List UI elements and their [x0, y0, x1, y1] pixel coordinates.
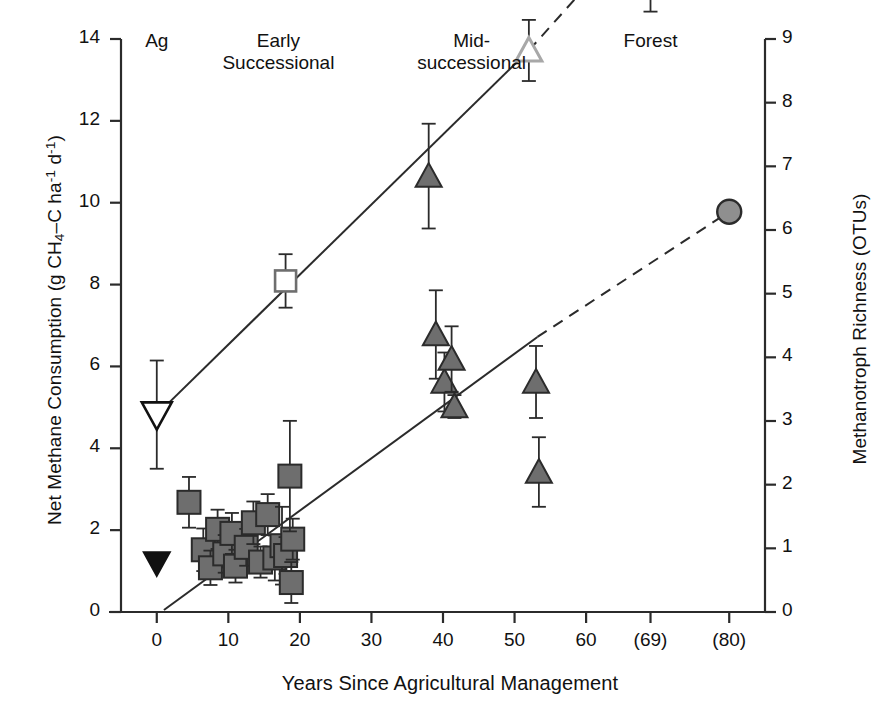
y-tick-label-right-8: 8: [782, 90, 822, 112]
y-tick-label-left-12: 12: [60, 108, 100, 130]
plot-canvas: [0, 0, 888, 717]
x-tick-label-50: 50: [485, 629, 545, 651]
datapoint-triangle-up-filled-4-0: [423, 322, 449, 346]
fit-line-richness-regression: [157, 50, 529, 414]
datapoint-square-open-3-0: [275, 270, 296, 291]
methane-richness-succession-chart: Net Methane Consumption (g CH4–C ha-1 d-…: [0, 0, 888, 717]
group-label-line: Early: [178, 30, 378, 52]
datapoint-square-filled-2-15: [278, 465, 301, 488]
group-label-line: Mid-: [372, 30, 572, 52]
y-tick-label-right-2: 2: [782, 472, 822, 494]
group-label-forest: Forest: [551, 30, 751, 52]
y-tick-label-right-4: 4: [782, 344, 822, 366]
y-tick-label-right-9: 9: [782, 26, 822, 48]
datapoint-triangle-up-filled-4-4: [523, 369, 549, 393]
y-tick-label-left-6: 6: [60, 353, 100, 375]
group-label-line: Successional: [178, 52, 378, 74]
x-tick-label-60: 60: [556, 629, 616, 651]
x-tick-label-10: 10: [198, 629, 258, 651]
x-tick-label-80: (80): [699, 629, 759, 651]
y-tick-label-left-2: 2: [60, 517, 100, 539]
y-tick-label-left-0: 0: [60, 599, 100, 621]
y-tick-label-right-1: 1: [782, 535, 822, 557]
group-label-line: successional: [372, 52, 572, 74]
datapoint-triangle-up-filled-5-0: [416, 163, 442, 187]
y-tick-label-left-4: 4: [60, 435, 100, 457]
datapoint-square-filled-2-0: [177, 491, 200, 514]
y-tick-label-right-0: 0: [782, 599, 822, 621]
datapoint-square-filled-2-16: [280, 571, 303, 594]
datapoint-circle-filled-8-0: [717, 200, 741, 224]
datapoint-triangle-down-open-1-0: [142, 402, 172, 429]
fit-line-consumption-extrapolation: [537, 212, 729, 337]
datapoint-triangle-up-filled-4-2: [439, 346, 465, 370]
group-label-earlysuccessional: EarlySuccessional: [178, 30, 378, 75]
y-tick-label-right-3: 3: [782, 408, 822, 430]
x-tick-label-40: 40: [413, 629, 473, 651]
y-tick-label-right-7: 7: [782, 153, 822, 175]
datapoint-triangle-down-filled-0-0: [144, 552, 170, 576]
y-tick-label-right-5: 5: [782, 281, 822, 303]
y-tick-label-right-6: 6: [782, 217, 822, 239]
group-label-midsuccessional: Mid-successional: [372, 30, 572, 75]
x-tick-label-20: 20: [270, 629, 330, 651]
x-tick-label-0: 0: [127, 629, 187, 651]
group-label-line: Forest: [551, 30, 751, 52]
y-tick-label-left-8: 8: [60, 272, 100, 294]
y-tick-label-left-10: 10: [60, 190, 100, 212]
x-tick-label-69: (69): [621, 629, 681, 651]
datapoint-triangle-up-filled-4-5: [526, 459, 552, 483]
x-tick-label-30: 30: [341, 629, 401, 651]
